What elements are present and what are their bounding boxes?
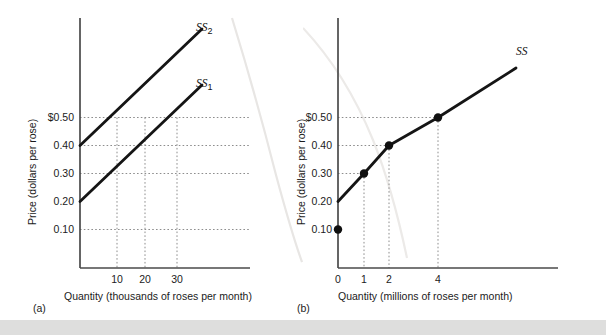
curve-label-ss1: SS1 — [196, 77, 213, 92]
curve-label-ss1-base: SS — [196, 77, 208, 89]
curve-label-ss: SS — [516, 45, 528, 57]
supply-curve-ss — [338, 68, 516, 202]
panel-b-xtick-1: 1 — [350, 273, 378, 285]
curve-label-ss-base: SS — [516, 45, 528, 57]
data-point-0-010 — [334, 225, 342, 233]
panel-a-x-axis-title: Quantity (thousands of roses per month) — [64, 290, 252, 302]
data-point-2-040 — [385, 141, 393, 149]
data-point-1-030 — [360, 169, 368, 177]
panel-b-ytick-040: 0.40 — [284, 139, 332, 151]
curve-label-ss2-sub: 2 — [208, 26, 213, 36]
panel-b-ytick-020: 0.20 — [284, 195, 332, 207]
panel-a: Price (dollars per rose) $0.50 0.40 0.30… — [0, 0, 303, 335]
panel-b-xtick-2: 2 — [375, 273, 403, 285]
curve-label-ss2-base: SS — [196, 21, 208, 33]
panel-a-ytick-020: 0.20 — [26, 195, 74, 207]
supply-curve-ss1 — [80, 85, 202, 202]
panel-a-ytick-040: 0.40 — [26, 139, 74, 151]
panel-b-ytick-030: 0.30 — [284, 167, 332, 179]
panel-a-caption: (a) — [33, 302, 46, 314]
supply-curve-ss2 — [80, 29, 202, 146]
panel-b-ytick-010: 0.10 — [284, 223, 332, 235]
panel-a-xtick-10: 10 — [103, 273, 131, 285]
panel-b-ytick-050: $0.50 — [284, 111, 332, 123]
panel-a-xtick-30: 30 — [163, 273, 191, 285]
panel-a-ytick-050: $0.50 — [26, 111, 74, 123]
data-point-4-050 — [434, 113, 442, 121]
panel-b-x-axis-title: Quantity (millions of roses per month) — [338, 290, 512, 302]
panel-b-xtick-0: 0 — [324, 273, 352, 285]
panel-a-xtick-20: 20 — [131, 273, 159, 285]
panel-b: Price (dollars per rose) $0.50 0.40 0.30… — [303, 0, 606, 335]
panel-a-ytick-030: 0.30 — [26, 167, 74, 179]
panel-b-xtick-4: 4 — [424, 273, 452, 285]
figure-canvas: Price (dollars per rose) $0.50 0.40 0.30… — [0, 0, 606, 320]
curve-label-ss1-sub: 1 — [208, 82, 213, 92]
panel-a-ytick-010: 0.10 — [26, 223, 74, 235]
panel-b-caption: (b) — [297, 302, 310, 314]
curve-label-ss2: SS2 — [196, 21, 213, 36]
